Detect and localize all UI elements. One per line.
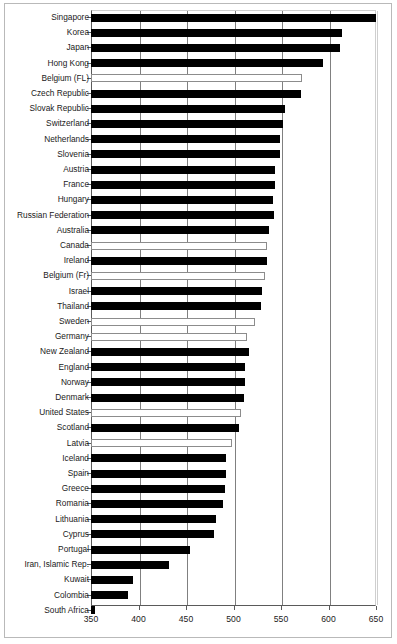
category-label-norway: Norway <box>61 377 89 387</box>
bar-germany <box>91 333 247 341</box>
category-label-korea: Korea <box>67 27 89 37</box>
category-label-netherlands: Netherlands <box>44 134 89 144</box>
chart-page: SingaporeKoreaJapanHong KongBelgium (FL)… <box>0 0 397 644</box>
bar-denmark <box>91 394 244 402</box>
bar-kuwait <box>91 576 133 584</box>
category-label-cyprus: Cyprus <box>63 529 89 539</box>
bar-row <box>91 572 376 587</box>
category-label-switzerland: Switzerland <box>46 118 89 128</box>
bar-japan <box>91 44 340 52</box>
bar-row <box>91 116 376 131</box>
category-label-hong-kong: Hong Kong <box>47 58 89 68</box>
category-label-colombia: Colombia <box>54 590 89 600</box>
category-label-singapore: Singapore <box>51 12 89 22</box>
bar-norway <box>91 378 245 386</box>
bar-austria <box>91 166 275 174</box>
bar-france <box>91 181 275 189</box>
category-label-england: England <box>59 362 89 372</box>
bar-row <box>91 314 376 329</box>
bar-israel <box>91 287 262 295</box>
category-label-lithuania: Lithuania <box>55 514 89 524</box>
bar-row <box>91 238 376 253</box>
x-tick-650 <box>376 606 377 610</box>
bar-england <box>91 363 245 371</box>
bar-slovak-republic <box>91 105 285 113</box>
bar-switzerland <box>91 120 283 128</box>
bar-russian-federation <box>91 211 274 219</box>
bar-iceland <box>91 454 226 462</box>
bar-romania <box>91 500 223 508</box>
bar-belgium-fr <box>91 272 265 280</box>
category-label-iceland: Iceland <box>62 453 89 463</box>
category-label-czech-republic: Czech Republic <box>31 88 89 98</box>
bar-row <box>91 496 376 511</box>
category-label-iran-islamic-rep: Iran, Islamic Rep. <box>24 559 89 569</box>
category-label-denmark: Denmark <box>55 392 89 402</box>
bar-colombia <box>91 591 128 599</box>
bar-row <box>91 481 376 496</box>
category-label-scotland: Scotland <box>57 422 89 432</box>
bar-row <box>91 375 376 390</box>
category-label-hungary: Hungary <box>58 194 89 204</box>
bar-scotland <box>91 424 239 432</box>
category-label-russian-federation: Russian Federation <box>17 210 89 220</box>
category-label-sweden: Sweden <box>59 316 89 326</box>
x-tick-label-350: 350 <box>71 614 111 624</box>
category-label-spain: Spain <box>68 468 89 478</box>
bar-row <box>91 56 376 71</box>
bar-row <box>91 512 376 527</box>
category-label-ireland: Ireland <box>64 255 89 265</box>
bar-row <box>91 208 376 223</box>
bar-row <box>91 420 376 435</box>
bar-cyprus <box>91 530 214 538</box>
category-label-slovak-republic: Slovak Republic <box>30 103 90 113</box>
bar-row <box>91 86 376 101</box>
category-label-greece: Greece <box>62 483 89 493</box>
bar-row <box>91 542 376 557</box>
category-label-australia: Australia <box>57 225 89 235</box>
bar-row <box>91 344 376 359</box>
x-tick-label-450: 450 <box>166 614 206 624</box>
bar-row <box>91 284 376 299</box>
bar-latvia <box>91 439 232 447</box>
bar-spain <box>91 470 226 478</box>
bar-row <box>91 192 376 207</box>
bar-united-states <box>91 409 241 417</box>
bar-portugal <box>91 546 190 554</box>
x-tick-label-500: 500 <box>214 614 254 624</box>
bar-row <box>91 162 376 177</box>
bar-row <box>91 405 376 420</box>
x-tick-label-550: 550 <box>261 614 301 624</box>
bar-row <box>91 253 376 268</box>
category-label-belgium-fl: Belgium (FL) <box>42 73 90 83</box>
category-label-new-zealand: New Zealand <box>40 346 89 356</box>
bar-lithuania <box>91 515 216 523</box>
category-label-germany: Germany <box>55 331 89 341</box>
bar-netherlands <box>91 135 280 143</box>
bar-row <box>91 451 376 466</box>
bar-australia <box>91 226 269 234</box>
bar-hungary <box>91 196 273 204</box>
bar-row <box>91 329 376 344</box>
category-label-romania: Romania <box>56 498 89 508</box>
bar-row <box>91 147 376 162</box>
bar-canada <box>91 242 267 250</box>
bar-slovenia <box>91 150 280 158</box>
bar-row <box>91 527 376 542</box>
bar-belgium-fl <box>91 74 302 82</box>
bar-row <box>91 40 376 55</box>
gridline-650 <box>377 11 378 605</box>
bar-new-zealand <box>91 348 249 356</box>
category-label-canada: Canada <box>60 240 89 250</box>
bar-row <box>91 10 376 25</box>
bar-row <box>91 223 376 238</box>
x-tick-label-400: 400 <box>119 614 159 624</box>
bar-row <box>91 588 376 603</box>
category-label-austria: Austria <box>63 164 89 174</box>
category-label-kuwait: Kuwait <box>64 574 89 584</box>
x-tick-label-650: 650 <box>356 614 396 624</box>
bar-row <box>91 25 376 40</box>
category-label-thailand: Thailand <box>57 301 89 311</box>
bar-row <box>91 177 376 192</box>
bar-row <box>91 71 376 86</box>
